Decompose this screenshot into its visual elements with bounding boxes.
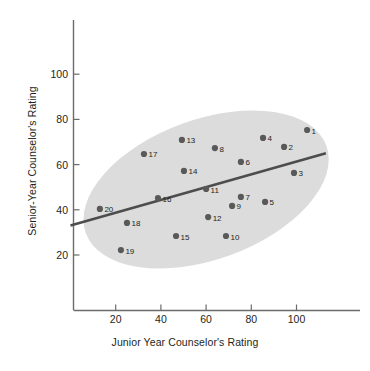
- data-point-label: 20: [104, 205, 113, 214]
- data-point-label: 11: [211, 185, 219, 194]
- x-tick-label: 100: [288, 313, 306, 325]
- data-point: [223, 233, 229, 239]
- data-point: [262, 199, 268, 205]
- scatter-plot: Senior-Year Counselor's Rating Junior Ye…: [0, 0, 370, 371]
- x-tick-label: 40: [155, 313, 167, 325]
- y-tick-label: 20: [40, 249, 68, 261]
- y-tick-label: 40: [40, 204, 68, 216]
- x-tick-label: 60: [200, 313, 212, 325]
- data-point: [141, 151, 147, 157]
- data-point-label: 15: [181, 232, 190, 241]
- x-tick-label: 20: [110, 313, 122, 325]
- data-point: [229, 203, 235, 209]
- data-point-label: 10: [230, 232, 239, 241]
- y-tick-label: 80: [40, 113, 68, 125]
- data-point: [124, 220, 130, 226]
- data-point-label: 7: [245, 193, 249, 202]
- data-point: [155, 195, 161, 201]
- data-point-label: 18: [132, 219, 141, 228]
- data-point-label: 1: [312, 126, 316, 135]
- data-point-label: 5: [270, 198, 274, 207]
- data-point-label: 9: [237, 202, 241, 211]
- data-point-label: 8: [219, 144, 223, 153]
- data-point-label: 6: [245, 158, 249, 167]
- plot-canvas: [0, 0, 370, 371]
- data-point: [203, 186, 209, 192]
- data-point: [291, 170, 297, 176]
- data-point: [173, 233, 179, 239]
- data-point-label: 17: [148, 150, 157, 159]
- data-point: [181, 168, 187, 174]
- x-tick-label: 80: [245, 313, 257, 325]
- data-point-label: 2: [289, 143, 293, 152]
- data-point-label: 12: [213, 213, 222, 222]
- data-point-label: 19: [125, 246, 134, 255]
- data-point: [238, 159, 244, 165]
- y-axis-title: Senior-Year Counselor's Rating: [26, 66, 38, 256]
- data-point-label: 16: [162, 194, 171, 203]
- data-point: [118, 247, 124, 253]
- data-point: [304, 127, 310, 133]
- data-point-label: 14: [188, 167, 197, 176]
- y-tick-label: 60: [40, 159, 68, 171]
- y-tick-label: 100: [40, 68, 68, 80]
- data-point: [205, 214, 211, 220]
- data-point: [238, 194, 244, 200]
- x-axis-title: Junior Year Counselor's Rating: [0, 336, 370, 348]
- data-point-label: 3: [299, 169, 303, 178]
- data-point: [97, 206, 103, 212]
- data-point-label: 4: [268, 134, 272, 143]
- data-point: [260, 135, 266, 141]
- data-point: [179, 137, 185, 143]
- data-point: [281, 144, 287, 150]
- data-point-label: 13: [186, 136, 195, 145]
- data-point: [212, 145, 218, 151]
